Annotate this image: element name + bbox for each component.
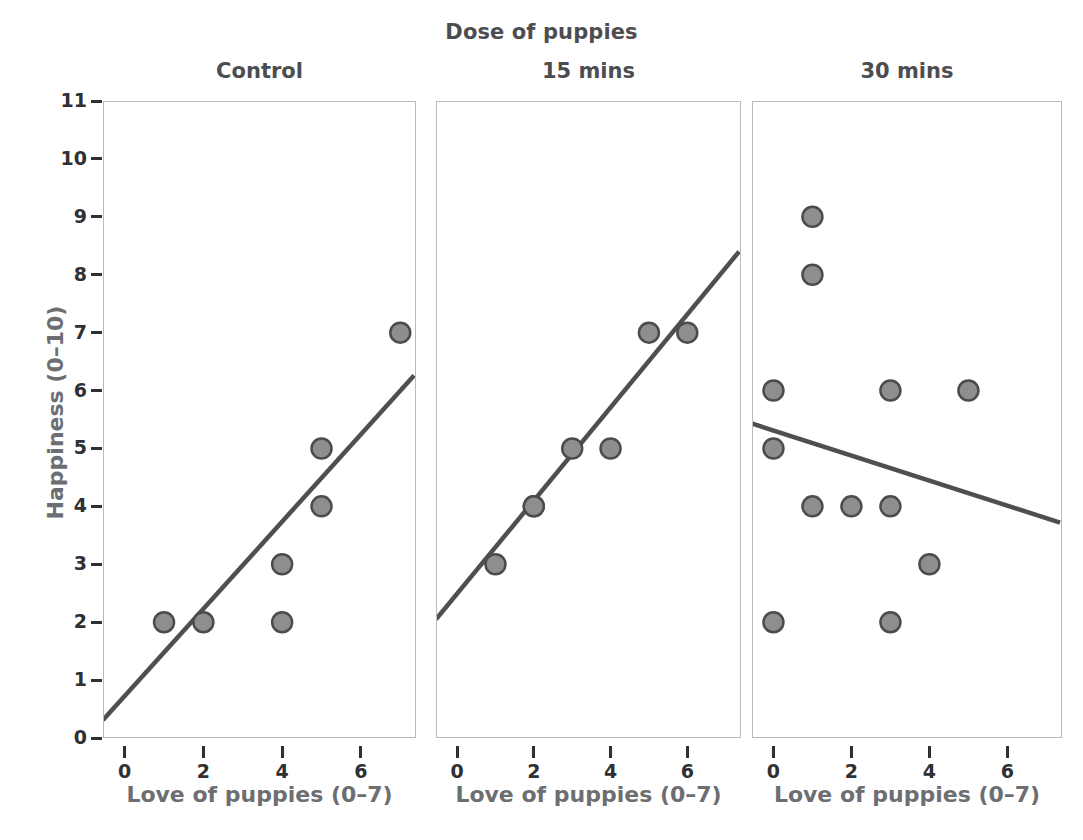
y-tick-mark: [91, 621, 102, 624]
x-tick-mark: [772, 746, 775, 758]
y-tick-label: 7: [45, 323, 87, 342]
panel-title-2: 15 mins: [436, 59, 741, 83]
x-tick-mark: [281, 746, 284, 758]
y-tick-mark: [91, 157, 102, 160]
x-tick-label: 4: [914, 762, 944, 781]
x-tick-label: 2: [519, 762, 549, 781]
y-tick-label: 6: [45, 381, 87, 400]
y-tick-label: 11: [45, 91, 87, 110]
x-axis-title-1: Love of puppies (0–7): [91, 782, 428, 807]
x-tick-label: 2: [836, 762, 866, 781]
y-tick-mark: [91, 679, 102, 682]
x-tick-mark: [532, 746, 535, 758]
x-tick-label: 6: [992, 762, 1022, 781]
y-tick-mark: [91, 447, 102, 450]
y-tick-label: 0: [45, 728, 87, 747]
y-tick-label: 5: [45, 438, 87, 457]
x-tick-mark: [850, 746, 853, 758]
panel-title-1: Control: [103, 59, 416, 83]
y-axis-title: Happiness (0–10): [43, 178, 68, 648]
x-tick-label: 0: [758, 762, 788, 781]
x-axis-title-3: Love of puppies (0–7): [740, 782, 1074, 807]
panel-frame-2: [436, 101, 741, 738]
x-tick-mark: [456, 746, 459, 758]
y-tick-mark: [91, 273, 102, 276]
x-tick-label: 6: [672, 762, 702, 781]
y-tick-mark: [91, 505, 102, 508]
panel-frame-3: [752, 101, 1062, 738]
x-tick-label: 6: [346, 762, 376, 781]
x-tick-mark: [928, 746, 931, 758]
x-tick-mark: [359, 746, 362, 758]
y-tick-label: 4: [45, 496, 87, 515]
y-tick-label: 8: [45, 265, 87, 284]
y-tick-label: 3: [45, 554, 87, 573]
x-tick-label: 0: [110, 762, 140, 781]
x-tick-label: 4: [596, 762, 626, 781]
y-tick-mark: [91, 737, 102, 740]
x-tick-mark: [609, 746, 612, 758]
y-tick-mark: [91, 389, 102, 392]
chart-figure: Dose of puppies Happiness (0–10) Control…: [0, 0, 1083, 840]
y-tick-mark: [91, 100, 102, 103]
y-tick-mark: [91, 331, 102, 334]
y-tick-label: 9: [45, 207, 87, 226]
x-axis-title-2: Love of puppies (0–7): [424, 782, 753, 807]
y-tick-mark: [91, 563, 102, 566]
y-tick-label: 10: [45, 149, 87, 168]
x-tick-mark: [1006, 746, 1009, 758]
panel-frame-1: [103, 101, 416, 738]
x-tick-mark: [686, 746, 689, 758]
y-tick-label: 1: [45, 670, 87, 689]
figure-super-title: Dose of puppies: [0, 20, 1083, 44]
y-tick-label: 2: [45, 612, 87, 631]
panel-title-3: 30 mins: [752, 59, 1062, 83]
x-tick-mark: [123, 746, 126, 758]
x-tick-mark: [202, 746, 205, 758]
x-tick-label: 2: [188, 762, 218, 781]
x-tick-label: 0: [442, 762, 472, 781]
y-tick-mark: [91, 215, 102, 218]
x-tick-label: 4: [267, 762, 297, 781]
